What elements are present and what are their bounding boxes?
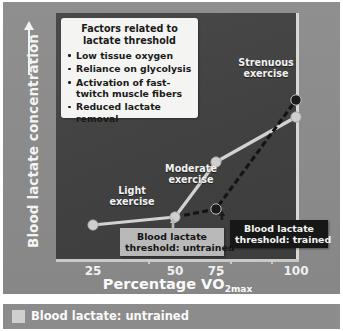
callout-threshold-trained: Blood lactate threshold: trained — [230, 220, 328, 248]
x-axis-label-vo2: O — [212, 276, 224, 292]
label-moderate-exercise-line2: exercise — [168, 174, 213, 185]
y-axis-label: Blood lactate concentration — [25, 38, 41, 248]
label-light-exercise-line1: Light — [118, 185, 146, 196]
callout-threshold-untrained: Blood lactate threshold: untrained — [120, 228, 224, 256]
legend-item-label: Blood lactate: untrained — [31, 309, 189, 323]
info-box-list: Low tissue oxygen Reliance on glycolysis… — [67, 50, 192, 124]
callout-trained-line1: Blood lactate — [244, 223, 314, 234]
info-box-item: Reliance on glycolysis — [67, 63, 192, 74]
label-light-exercise: Light exercise — [104, 186, 160, 208]
label-strenuous-exercise-line2: exercise — [243, 68, 288, 79]
x-tick-mark-25 — [148, 259, 150, 264]
label-moderate-exercise-line1: Moderate — [165, 163, 217, 174]
info-box-item: Low tissue oxygen — [67, 50, 192, 61]
info-box-title: Factors related to lactate threshold — [67, 23, 192, 46]
figure-root: Blood lactate concentration Factors rela… — [0, 0, 343, 331]
y-axis: Blood lactate concentration — [6, 13, 52, 263]
legend-strip: Blood lactate: untrained — [3, 304, 340, 329]
callout-trained-line2: threshold: trained — [235, 234, 331, 245]
info-box-title-line1: Factors related to — [81, 23, 178, 34]
label-moderate-exercise: Moderate exercise — [158, 164, 224, 186]
info-box-title-line2: lactate threshold — [83, 35, 176, 46]
info-box-item: Reduced lactate removal — [67, 101, 192, 123]
legend-item-untrained: Blood lactate: untrained — [12, 309, 189, 323]
info-box-item: Activation of fast-twitch muscle fibers — [67, 77, 192, 99]
label-light-exercise-line2: exercise — [109, 196, 154, 207]
label-strenuous-exercise: Strenuous exercise — [236, 58, 296, 80]
callout-untrained-line1: Blood lactate — [137, 231, 207, 242]
callout-untrained-line2: threshold: untrained — [125, 242, 235, 253]
x-axis-label: Percentage VO2max — [56, 276, 299, 292]
legend-swatch-icon — [12, 310, 25, 323]
x-tick-mark-75 — [271, 259, 273, 264]
info-box: Factors related to lactate threshold Low… — [61, 18, 198, 118]
x-tick-mark-50 — [230, 259, 232, 264]
x-axis-label-subscript: 2max — [225, 284, 253, 294]
x-axis-label-prefix: Percentage V — [103, 276, 213, 292]
label-strenuous-exercise-line1: Strenuous — [238, 57, 294, 68]
